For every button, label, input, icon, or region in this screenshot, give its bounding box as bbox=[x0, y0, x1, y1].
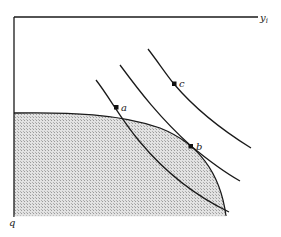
point-b-label: b bbox=[196, 141, 202, 152]
feasible-region bbox=[14, 113, 226, 216]
point-a-label: a bbox=[121, 102, 127, 113]
point-c-marker bbox=[172, 82, 177, 87]
point-c-label: c bbox=[179, 78, 185, 89]
horizontal-axis-label: yi bbox=[259, 12, 268, 25]
point-a-marker bbox=[114, 105, 119, 110]
ppf-diagram: a b c yi q bbox=[0, 0, 281, 237]
vertical-axis-label: q bbox=[9, 217, 15, 228]
point-b-marker bbox=[189, 144, 194, 149]
